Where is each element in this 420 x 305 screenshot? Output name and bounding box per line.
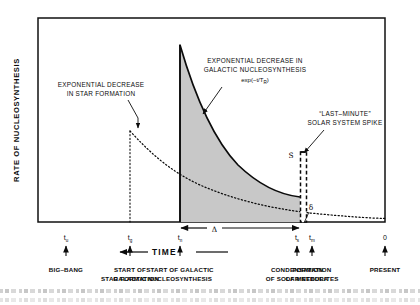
x-tick-category: FORMATION — [293, 266, 332, 273]
tick-extra-category-galactic: GALACTIC — [113, 275, 147, 282]
solar-spike-annotation-line1: “LAST–MINUTE” — [319, 110, 371, 117]
x-tick-category: OF METEORITES — [285, 275, 338, 282]
y-axis-label: RATE OF NUCLEOSYNTHESIS — [12, 58, 21, 182]
x-tick-category: PRESENT — [370, 266, 401, 273]
caption-line-2 — [0, 298, 420, 302]
x-tick-category: START OF GALACTIC — [146, 266, 214, 273]
x-tick-category: BIG–BANG — [49, 266, 83, 273]
solar-spike-annotation-line2: SOLAR SYSTEM SPIKE — [308, 119, 383, 126]
spike-width-symbol: δ — [309, 203, 314, 212]
caption-line-1 — [0, 289, 420, 293]
formula-prefix: exp(−t/T — [241, 77, 264, 83]
galactic-annotation-line2: GALACTIC NUCLEOSYNTHESIS — [204, 66, 307, 73]
star-formation-annotation-line1: EXPONENTIAL DECREASE — [58, 81, 144, 88]
page-caption-strip — [0, 288, 420, 305]
spike-height-symbol: S — [288, 151, 293, 160]
formula-suffix: ) — [267, 77, 269, 83]
spike-height-symbol-group: S — [288, 151, 293, 160]
x-tick-category: NUCLEOSYNTHESIS — [148, 275, 212, 282]
galactic-annotation-line1: EXPONENTIAL DECREASE IN — [207, 57, 302, 64]
nucleosynthesis-rate-figure: EXPONENTIAL DECREASE IN STAR FORMATION E… — [0, 0, 420, 305]
interval-delta-symbol: Δ — [212, 225, 218, 234]
time-axis-label: TIME — [152, 247, 177, 257]
star-formation-annotation-line2: IN STAR FORMATION — [67, 90, 136, 97]
y-axis-label-group: RATE OF NUCLEOSYNTHESIS — [12, 58, 21, 182]
x-tick-category: START OF — [114, 266, 146, 273]
solar-system-spike — [301, 152, 307, 222]
x-tick-label: 0 — [383, 234, 387, 241]
